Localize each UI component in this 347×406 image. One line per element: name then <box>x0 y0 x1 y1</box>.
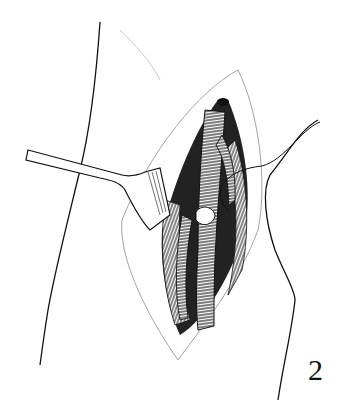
retractor <box>26 150 170 230</box>
surgical-illustration <box>0 0 347 406</box>
thigh-outline-left <box>40 22 100 365</box>
figure-number: 2 <box>308 353 323 387</box>
